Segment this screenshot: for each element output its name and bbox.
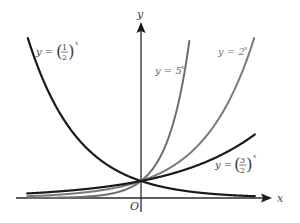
svg-text:y =: y = [214, 159, 232, 170]
exponential-graph: x y O y = ( 1 2 ) x y = 5 x y = 2 x y = … [0, 0, 300, 223]
svg-text:1: 1 [62, 43, 67, 52]
svg-text:2: 2 [62, 53, 67, 62]
svg-text:y = 5: y = 5 [154, 65, 182, 76]
y-axis-label: y [136, 8, 144, 21]
x-axis-label: x [277, 192, 284, 205]
svg-text:): ) [68, 41, 75, 61]
svg-text:y = 2: y = 2 [217, 46, 245, 57]
label-half-x: y = ( 1 2 ) x [35, 39, 79, 62]
label-two-x: y = 2 x [217, 44, 248, 57]
svg-text:x: x [75, 39, 79, 46]
svg-text:x: x [244, 44, 248, 51]
svg-text:): ) [246, 154, 253, 174]
svg-text:2: 2 [240, 166, 245, 175]
svg-text:y =: y = [35, 46, 53, 57]
label-five-x: y = 5 x [154, 63, 185, 76]
svg-text:3: 3 [240, 156, 245, 165]
origin-label: O [130, 200, 139, 213]
svg-text:x: x [253, 152, 257, 159]
